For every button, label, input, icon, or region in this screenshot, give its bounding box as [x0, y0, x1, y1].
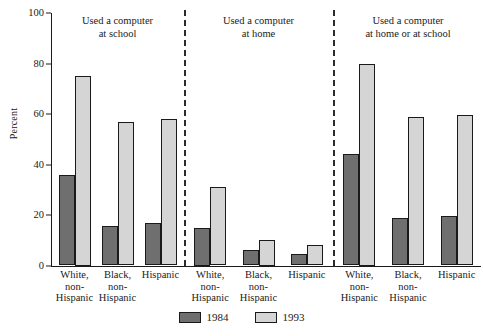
bar-p1-1-1993 — [75, 76, 91, 265]
legend-label-1984: 1984 — [207, 311, 229, 323]
panel-title-2: Used a computer at home — [186, 14, 331, 40]
category-label-p1-3: Hispanic — [139, 269, 182, 281]
grouped-bar-chart: Percent 100806040200 Used a computer at … — [0, 0, 483, 336]
bar-p3-1-1993 — [359, 64, 375, 266]
bar-p2-1-1993 — [210, 187, 226, 265]
bar-p1-2-1984 — [102, 226, 118, 265]
panel-divider-1 — [184, 10, 186, 266]
bar-p2-1-1984 — [194, 228, 210, 266]
panel-title-1: Used a computer at school — [53, 14, 182, 40]
bar-p2-2-1993 — [259, 240, 275, 265]
legend-swatch-1984 — [179, 312, 201, 323]
bar-p3-1-1984 — [343, 154, 359, 265]
chart-legend: 19841993 — [0, 311, 483, 323]
bar-p1-3-1993 — [161, 119, 177, 265]
bar-p2-3-1984 — [291, 254, 307, 265]
bar-p1-2-1993 — [118, 122, 134, 266]
category-label-p2-1: White, non- Hispanic — [186, 269, 234, 304]
category-label-p3-2: Black, non- Hispanic — [384, 269, 433, 304]
bar-p1-3-1984 — [145, 223, 161, 266]
bar-p3-3-1984 — [441, 216, 457, 265]
bar-p1-1-1984 — [59, 175, 75, 266]
y-axis-line — [51, 13, 52, 266]
bar-p2-2-1984 — [243, 250, 259, 265]
bar-p3-2-1984 — [392, 218, 408, 266]
panel-divider-2 — [333, 10, 335, 266]
legend-item-1993: 1993 — [255, 311, 305, 323]
bar-p3-2-1993 — [408, 117, 424, 266]
bar-p2-3-1993 — [307, 245, 323, 265]
legend-label-1993: 1993 — [283, 311, 305, 323]
category-label-p3-3: Hispanic — [432, 269, 481, 281]
x-axis-line — [51, 266, 481, 267]
category-label-p2-2: Black, non- Hispanic — [234, 269, 282, 304]
bar-p3-3-1993 — [457, 115, 473, 265]
category-label-p1-2: Black, non- Hispanic — [96, 269, 139, 304]
panel-title-3: Used a computer at home or at school — [335, 14, 481, 40]
category-label-p1-1: White, non- Hispanic — [53, 269, 96, 304]
category-label-p2-3: Hispanic — [283, 269, 331, 281]
legend-item-1984: 1984 — [179, 311, 229, 323]
category-label-p3-1: White, non- Hispanic — [335, 269, 384, 304]
legend-swatch-1993 — [255, 312, 277, 323]
